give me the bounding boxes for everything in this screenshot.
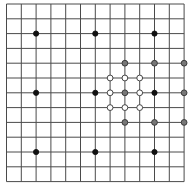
black-point — [93, 149, 98, 154]
white-point — [122, 105, 128, 111]
gray-point — [122, 90, 128, 96]
white-point — [137, 105, 143, 111]
gray-point — [152, 120, 158, 126]
gray-point — [181, 90, 187, 96]
black-point — [93, 90, 98, 95]
white-point — [107, 75, 113, 81]
black-point — [34, 31, 39, 36]
gray-point — [152, 60, 158, 66]
white-point — [137, 75, 143, 81]
black-point — [34, 149, 39, 154]
white-point — [137, 90, 143, 96]
gray-point — [181, 60, 187, 66]
gray-point — [122, 60, 128, 66]
white-point — [107, 90, 113, 96]
gray-point — [122, 120, 128, 126]
black-point — [152, 90, 157, 95]
white-point — [122, 75, 128, 81]
grid-diagram — [0, 0, 189, 187]
white-point — [107, 105, 113, 111]
gray-point — [181, 120, 187, 126]
black-point — [34, 90, 39, 95]
black-point — [152, 149, 157, 154]
black-point — [152, 31, 157, 36]
black-point — [93, 31, 98, 36]
